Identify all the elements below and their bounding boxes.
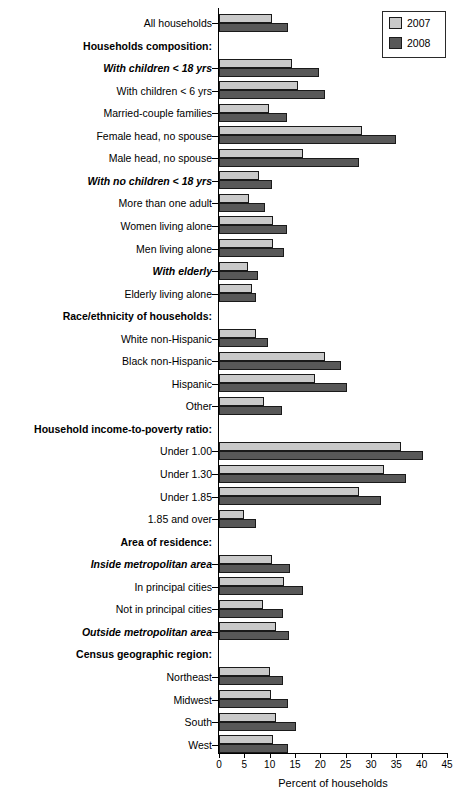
x-tick [320,753,321,758]
bar-2008 [219,609,283,618]
bar-2008 [219,676,283,685]
bar-2008 [219,586,303,595]
bar-2007 [219,171,259,180]
row-tick-mark [212,23,218,24]
row-label: Male head, no spouse [0,152,212,164]
row-label: In principal cities [0,581,212,593]
bar-2008 [219,271,258,280]
row-label: Households composition: [0,40,212,52]
bar-2007 [219,81,298,90]
bar-2008 [219,496,381,505]
legend-label-2008: 2008 [407,37,430,50]
bar-2008 [219,519,256,528]
row-label: More than one adult [0,197,212,209]
bar-2008 [219,248,284,257]
row-label: With no children < 18 yrs [0,175,212,187]
row-label: With elderly [0,265,212,277]
row-label: White non-Hispanic [0,333,212,345]
x-tick [422,753,423,758]
bar-2007 [219,713,276,722]
bar-2007 [219,126,362,135]
x-tick [219,753,220,758]
row-tick-mark [212,384,218,385]
row-label: Under 1.00 [0,445,212,457]
bar-2008 [219,180,272,189]
bar-2007 [219,510,244,519]
bar-2007 [219,735,273,744]
row-label: 1.85 and over [0,513,212,525]
bar-chart: All householdsHouseholds composition:Wit… [0,0,458,799]
bar-2008 [219,68,319,77]
row-tick-mark [212,91,218,92]
bar-2008 [219,722,296,731]
row-label: Under 1.85 [0,491,212,503]
bar-2007 [219,555,272,564]
legend-swatch-2008 [389,37,402,49]
bar-2008 [219,90,325,99]
row-tick-mark [212,339,218,340]
row-label: Other [0,400,212,412]
row-tick-mark [212,68,218,69]
row-label: Inside metropolitan area [0,558,212,570]
chart-legend: 2007 2008 [382,11,446,58]
legend-label-2007: 2007 [407,17,430,30]
row-tick-mark [212,745,218,746]
row-tick-mark [212,361,218,362]
bar-2007 [219,465,384,474]
row-label: Race/ethnicity of households: [0,310,212,322]
bar-2007 [219,622,276,631]
bar-2008 [219,474,406,483]
row-tick-mark [212,677,218,678]
bar-2008 [219,564,290,573]
row-label: Household income-to-poverty ratio: [0,423,212,435]
row-tick-mark [212,609,218,610]
row-tick-mark [212,158,218,159]
bar-2007 [219,577,284,586]
x-tick [270,753,271,758]
row-tick-mark [212,136,218,137]
row-tick-mark [212,181,218,182]
bar-2008 [219,699,288,708]
bar-2007 [219,59,292,68]
row-tick-mark [212,271,218,272]
row-label: Not in principal cities [0,603,212,615]
row-tick-mark [212,474,218,475]
row-tick-mark [212,113,218,114]
bar-2008 [219,361,341,370]
chart-row: West [0,734,458,760]
bar-2008 [219,225,287,234]
bar-2007 [219,104,269,113]
bar-2008 [219,203,265,212]
bar-2008 [219,744,288,753]
row-label: Married-couple families [0,107,212,119]
row-label: Area of residence: [0,536,212,548]
row-label: Elderly living alone [0,288,212,300]
row-tick-mark [212,203,218,204]
row-label: Census geographic region: [0,648,212,660]
row-tick-mark [212,406,218,407]
x-tick [447,753,448,758]
bar-2007 [219,667,270,676]
row-tick-mark [212,587,218,588]
row-label: All households [0,17,212,29]
row-tick-mark [212,451,218,452]
bar-2008 [219,113,287,122]
x-tick [346,753,347,758]
x-tick-label: 45 [432,759,458,770]
legend-swatch-2007 [389,17,402,29]
x-tick [371,753,372,758]
row-label: With children < 18 yrs [0,62,212,74]
row-tick-mark [212,226,218,227]
bar-2007 [219,352,325,361]
bar-2007 [219,262,248,271]
row-tick-mark [212,249,218,250]
x-axis-title: Percent of households [219,777,447,789]
row-label: With children < 6 yrs [0,85,212,97]
bar-2008 [219,631,289,640]
row-tick-mark [212,564,218,565]
x-tick [244,753,245,758]
row-label: Black non-Hispanic [0,355,212,367]
row-label: Under 1.30 [0,468,212,480]
bar-2007 [219,690,271,699]
bar-2008 [219,158,359,167]
